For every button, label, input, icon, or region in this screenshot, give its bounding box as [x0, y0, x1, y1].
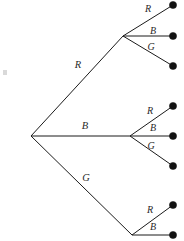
- image-artifact-speck: [3, 70, 7, 75]
- leaf-dot-RG: [169, 62, 176, 69]
- edge-label-B-R: R: [146, 105, 153, 116]
- leaf-dot-BR: [169, 102, 176, 109]
- leaf-dot-RR: [169, 1, 176, 8]
- leaf-dots: [169, 1, 176, 238]
- leaf-dot-GB: [169, 231, 176, 238]
- edge-label-root-B: B: [82, 120, 89, 131]
- edge-label-B-B: B: [150, 122, 156, 133]
- branch-root-to-R: [31, 36, 123, 136]
- leaf-dot-BG: [169, 162, 176, 169]
- edge-label-R-R: R: [144, 3, 151, 14]
- probability-tree-diagram: R B G R B G R B G R B: [0, 0, 184, 241]
- edge-label-root-R: R: [74, 59, 82, 70]
- level2-edge-labels-R: R B G: [144, 3, 156, 52]
- edge-label-B-G: G: [147, 140, 154, 151]
- edge-label-root-G: G: [82, 172, 90, 183]
- level2-edge-labels-B: R B G: [146, 105, 156, 151]
- branch-root-to-G: [31, 136, 132, 235]
- leaf-dot-BB: [169, 132, 176, 139]
- edge-label-R-B: B: [150, 25, 156, 36]
- level1-branches: [31, 36, 132, 235]
- tree-svg-canvas: R B G R B G R B G R B: [0, 0, 184, 241]
- edge-label-G-R: R: [146, 204, 153, 215]
- edge-label-R-G: G: [147, 41, 154, 52]
- leaf-dot-RB: [169, 32, 176, 39]
- edge-label-G-B: B: [150, 221, 156, 232]
- leaf-dot-GR: [169, 201, 176, 208]
- level1-edge-labels: R B G: [74, 59, 90, 183]
